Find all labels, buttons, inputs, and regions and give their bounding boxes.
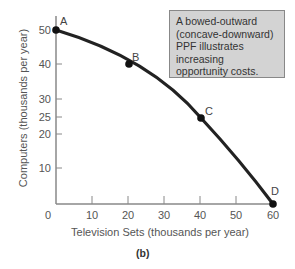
y-tick-10: 10 [39,162,51,174]
y-tick-50: 50 [39,24,51,36]
x-tick-50: 50 [230,209,242,221]
point-c-marker [197,114,205,122]
annotation-line: PPF illustrates [176,40,278,53]
x-tick-10: 10 [86,209,98,221]
y-axis-title: Computers (thousands per year) [17,29,29,187]
point-d-marker [269,200,277,208]
x-tick-20: 20 [122,209,134,221]
x-ticks [92,196,236,204]
y-ticks [56,64,62,168]
annotation-line: opportunity costs. [176,65,278,78]
x-axis-title: Television Sets (thousands per year) [71,226,249,238]
annotation-box: A bowed-outward (concave-downward) PPF i… [169,10,285,78]
x-tick-0: 0 [45,209,51,221]
annotation-line: A bowed-outward [176,15,278,28]
figure-caption: (b) [136,247,149,259]
point-a-marker [52,26,60,34]
point-a-label: A [60,15,68,27]
x-tick-40: 40 [194,209,206,221]
x-tick-30: 30 [158,209,170,221]
x-tick-60: 60 [267,209,279,221]
point-d-label: D [271,185,279,197]
annotation-line: increasing [176,53,278,66]
point-b-label: B [132,51,139,63]
annotation-line: (concave-downward) [176,28,278,41]
y-tick-20: 20 [39,128,51,140]
point-c-label: C [205,105,213,117]
y-tick-30: 30 [39,93,51,105]
y-tick-25: 25 [39,111,51,123]
y-tick-40: 40 [39,58,51,70]
